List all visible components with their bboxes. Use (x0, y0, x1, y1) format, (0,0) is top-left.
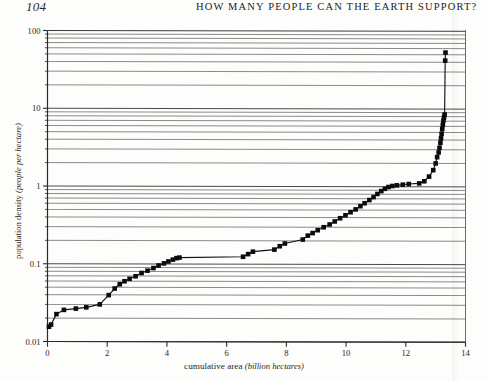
book-page: 104 HOW MANY PEOPLE CAN THE EARTH SUPPOR… (0, 0, 488, 381)
x-axis-ticks: 02468101214 (45, 342, 470, 358)
data-point-marker (439, 136, 444, 141)
data-point-marker (106, 293, 111, 298)
data-point-marker (74, 306, 79, 311)
grid-line (48, 203, 466, 204)
y-tick-label: 10 (32, 103, 41, 113)
grid-line (48, 287, 466, 288)
data-point-marker (117, 282, 122, 287)
figure-population-density-vs-cumulative-area: 0.010.111010002468101214 population dens… (0, 0, 488, 381)
data-point-marker (439, 131, 444, 136)
grid-line (48, 139, 466, 140)
data-point-marker (436, 150, 441, 155)
data-point-marker (427, 174, 432, 179)
x-tick-label: 4 (165, 348, 170, 358)
data-point-marker (332, 219, 337, 224)
data-point-marker (433, 161, 438, 166)
data-point-marker (54, 312, 59, 317)
grid-line (48, 116, 466, 117)
data-point-marker (272, 247, 277, 252)
data-point-marker (401, 182, 406, 187)
data-point-marker (417, 181, 422, 186)
data-point-marker (441, 123, 446, 128)
data-point-marker (139, 271, 144, 276)
grid-line (48, 163, 466, 164)
data-point-marker (300, 237, 305, 242)
data-point-marker (177, 255, 182, 260)
chart-plot-area: 0.010.111010002468101214 (0, 0, 488, 381)
grid-line (48, 217, 466, 218)
data-point-marker (246, 252, 251, 257)
grid-line (48, 61, 466, 62)
grid-line (48, 38, 466, 39)
x-axis-label: cumulative area (billion hectares) (0, 361, 488, 371)
grid-line (48, 281, 466, 282)
data-point-marker (437, 146, 442, 151)
grid-line (48, 43, 466, 44)
y-tick-label: 100 (28, 26, 41, 36)
x-tick-label: 8 (284, 348, 288, 358)
grid-line (48, 264, 466, 265)
data-point-marker (390, 184, 395, 189)
grid-line (48, 267, 466, 268)
grid-line (48, 48, 466, 49)
grid-line (48, 31, 466, 32)
data-point-marker (306, 233, 311, 238)
grid-line (48, 240, 466, 241)
data-point-marker (133, 274, 138, 279)
grid-line (48, 132, 466, 133)
grid-line (48, 149, 466, 150)
data-point-marker (127, 277, 132, 282)
data-point-marker (406, 182, 411, 187)
data-point-marker (283, 241, 288, 246)
data-point-marker (353, 207, 358, 212)
data-point-marker (395, 183, 400, 188)
y-axis-label: population density (people per hectare) (13, 91, 23, 291)
x-tick-label: 0 (45, 348, 49, 358)
grid-line (48, 276, 466, 277)
data-point-marker (422, 179, 427, 184)
grid-line (48, 198, 466, 199)
data-point-marker (321, 225, 326, 230)
grid-line (48, 126, 466, 127)
data-point-marker (241, 254, 246, 259)
data-point-marker (327, 222, 332, 227)
x-tick-label: 14 (461, 348, 470, 358)
data-point-marker (431, 168, 436, 173)
grid-line (48, 54, 466, 55)
data-point-marker (145, 268, 150, 273)
x-axis-label-main: cumulative area (184, 361, 242, 371)
grid-line (48, 190, 466, 191)
data-point-marker (435, 155, 440, 160)
data-point-marker (362, 201, 367, 206)
data-point-marker (358, 204, 363, 209)
grid-line (48, 85, 466, 86)
x-tick-label: 6 (224, 348, 229, 358)
grid-line (48, 194, 466, 195)
y-axis-label-units: (people per hectare) (13, 123, 23, 193)
y-axis-ticks: 0.010.1110100 (25, 26, 47, 347)
data-point-marker (112, 286, 117, 291)
x-tick-label: 12 (402, 348, 411, 358)
grid-line (48, 34, 466, 35)
data-point-marker (151, 266, 156, 271)
y-axis-label-main: population density (13, 195, 23, 259)
grid-line (48, 318, 466, 319)
x-tick-label: 10 (342, 348, 351, 358)
y-tick-label: 0.1 (30, 259, 41, 269)
data-point-marker (443, 50, 448, 55)
x-axis-label-units: (billion hectares) (245, 361, 304, 371)
x-axis-line (48, 342, 466, 343)
data-point-marker (442, 112, 447, 117)
grid-line (48, 71, 466, 72)
data-point-marker (156, 263, 161, 268)
data-point-marker (315, 228, 320, 233)
grid-line (48, 304, 466, 305)
grid-line (48, 227, 466, 228)
data-point-marker (162, 261, 167, 266)
data-point-marker (310, 231, 315, 236)
data-point-marker (443, 58, 448, 63)
grid-line (48, 120, 466, 121)
data-point-marker (438, 140, 443, 145)
data-point-marker (343, 213, 348, 218)
grid-line (48, 108, 466, 109)
